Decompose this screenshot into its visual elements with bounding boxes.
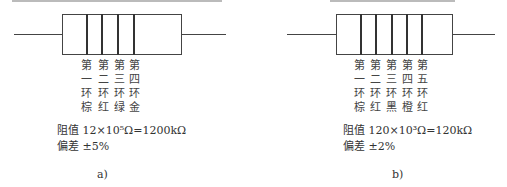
caption-b: b) [392, 168, 403, 182]
tolerance-value-a: 偏差 ±5% [57, 140, 109, 154]
band-5-b [421, 14, 423, 55]
band-label-4-a: 第四环金 [127, 59, 141, 115]
band-label-2-a: 第二环红 [96, 59, 110, 115]
band-3-a [117, 14, 119, 55]
resistor-body-a [62, 14, 182, 55]
lead-left-b [287, 34, 336, 35]
lead-right-a [182, 34, 226, 35]
caption-a: a) [97, 168, 108, 182]
band-2-b [375, 14, 377, 55]
tolerance-value-b: 偏差 ±2% [343, 140, 395, 154]
band-label-5-b: 第五环红 [415, 59, 429, 115]
cropped-heading-remnant [0, 0, 507, 3]
lead-left-a [14, 34, 62, 35]
resistance-value-b: 阻值 120×10³Ω=120kΩ [343, 124, 472, 138]
band-label-3-a: 第三环绿 [112, 59, 126, 115]
band-4-b [406, 14, 408, 55]
band-label-3-b: 第三环黑 [384, 59, 398, 115]
band-label-2-b: 第二环红 [368, 59, 382, 115]
resistor-body-b [336, 14, 453, 55]
lead-right-b [453, 34, 495, 35]
band-1-a [86, 14, 88, 55]
band-3-b [391, 14, 393, 55]
resistance-value-a: 阻值 12×10⁵Ω=1200kΩ [57, 124, 186, 138]
band-2-a [101, 14, 103, 55]
band-label-1-a: 第一环棕 [79, 59, 93, 115]
band-label-4-b: 第四环橙 [400, 59, 414, 115]
band-1-b [360, 14, 362, 55]
band-4-a [133, 14, 135, 55]
band-label-1-b: 第一环棕 [352, 59, 366, 115]
